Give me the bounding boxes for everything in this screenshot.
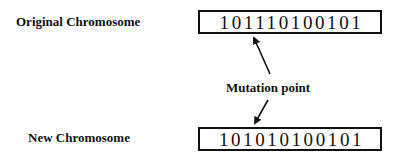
- mutation-arrows: [0, 0, 395, 160]
- arrow-down-icon: [255, 100, 268, 123]
- arrow-up-icon: [254, 38, 270, 74]
